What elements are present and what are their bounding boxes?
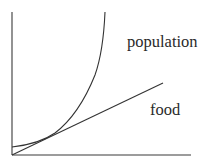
food-label: food [150, 100, 181, 119]
population-label: population [127, 32, 198, 51]
chart: population food [0, 0, 200, 165]
food-line [12, 83, 163, 155]
population-curve [12, 12, 105, 147]
